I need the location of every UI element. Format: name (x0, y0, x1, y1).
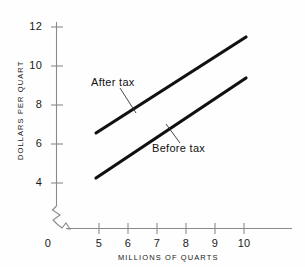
chart-container: 12 10 8 6 4 0 5 6 7 8 9 10 DOLLARS PER Q… (0, 0, 305, 267)
leader-line-after-tax (120, 88, 136, 113)
y-axis-title: DOLLARS PER QUART (16, 61, 25, 160)
series-label-after-tax: After tax (91, 76, 135, 88)
x-tick-label-8: 8 (176, 237, 196, 249)
series-line-before-tax (96, 78, 246, 178)
y-tick-label-4: 4 (20, 176, 42, 188)
x-tick-label-6: 6 (118, 237, 138, 249)
x-tick-label-7: 7 (147, 237, 167, 249)
x-axis-title: MILLIONS OF QUARTS (118, 253, 219, 262)
chart-plot-area (0, 0, 305, 267)
x-tick-label-10: 10 (234, 237, 254, 249)
y-axis-break-mark (53, 206, 61, 224)
x-tick-label-9: 9 (205, 237, 225, 249)
x-tick-label-0: 0 (38, 237, 58, 249)
series-label-before-tax: Before tax (152, 142, 205, 154)
x-tick-label-5: 5 (89, 237, 109, 249)
y-tick-label-12: 12 (20, 20, 42, 32)
